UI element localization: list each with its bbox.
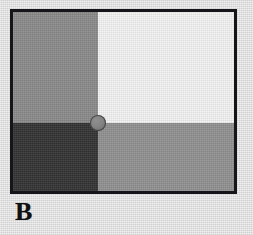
scan-page-background: B: [0, 0, 253, 235]
bottom-right-quadrant: [98, 123, 234, 191]
quadrant-grid: [13, 12, 234, 191]
panel-label: B: [15, 198, 32, 226]
figure-frame: [10, 9, 237, 194]
bottom-left-quadrant: [13, 123, 98, 191]
top-left-quadrant: [13, 12, 98, 123]
center-disc: [90, 115, 106, 131]
top-right-quadrant: [98, 12, 234, 123]
